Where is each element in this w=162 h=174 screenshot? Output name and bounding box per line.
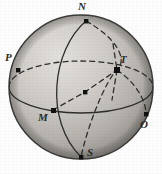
marker-P [16, 68, 20, 72]
label-point-n: N [78, 1, 86, 12]
label-point-o: O [140, 119, 148, 130]
marker-N [84, 19, 88, 23]
label-point-s: S [87, 147, 93, 158]
sphere-figure: N P T M O S [0, 0, 162, 174]
label-point-m: M [38, 112, 48, 123]
marker-M [51, 108, 56, 113]
sphere-diagram-svg [0, 0, 162, 174]
marker-S [79, 155, 83, 159]
marker-mid [83, 90, 87, 94]
label-point-t: T [120, 54, 127, 65]
marker-O [144, 112, 148, 116]
sphere-body [9, 15, 153, 159]
marker-T [114, 67, 120, 73]
label-point-p: P [5, 52, 12, 63]
